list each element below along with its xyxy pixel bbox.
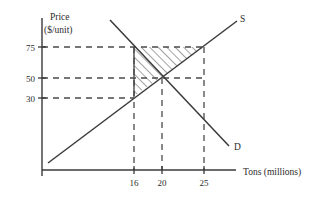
y-axis-title-line2: ($/unit) xyxy=(44,25,73,36)
y-tick-label-75: 75 xyxy=(26,43,36,53)
x-tick-labels: 16 20 25 xyxy=(130,178,210,188)
supply-curve xyxy=(48,21,237,163)
demand-curve xyxy=(110,20,229,146)
y-tick-label-30: 30 xyxy=(26,94,36,104)
curves xyxy=(48,20,237,163)
demand-curve-label: D xyxy=(234,142,241,152)
supply-demand-chart: 75 50 30 16 20 25 Price ($/unit) Tons (m… xyxy=(0,0,336,200)
y-axis-title-line1: Price xyxy=(50,12,70,22)
y-tick-labels: 75 50 30 xyxy=(26,43,36,104)
x-tick-label-25: 25 xyxy=(200,178,210,188)
supply-curve-label: S xyxy=(240,14,245,24)
y-tick-label-50: 50 xyxy=(26,74,36,84)
x-tick-label-16: 16 xyxy=(130,178,140,188)
axis-titles: Price ($/unit) Tons (millions) xyxy=(44,12,301,178)
x-tick-label-20: 20 xyxy=(158,178,168,188)
guide-lines xyxy=(42,47,204,170)
curve-labels: S D xyxy=(234,14,245,152)
chart-canvas: 75 50 30 16 20 25 Price ($/unit) Tons (m… xyxy=(0,0,336,200)
axes xyxy=(42,18,236,176)
x-axis-title: Tons (millions) xyxy=(243,167,301,178)
